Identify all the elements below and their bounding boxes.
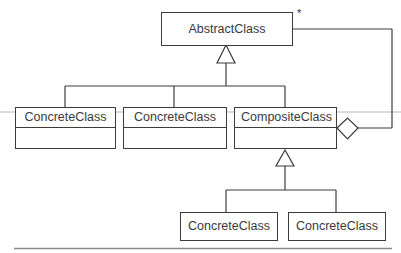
class-attributes-section: [16, 127, 115, 148]
class-concrete-4: ConcreteClass: [288, 212, 386, 241]
class-name: ConcreteClass: [181, 213, 277, 240]
class-composite: CompositeClass: [234, 107, 337, 149]
class-concrete-3: ConcreteClass: [180, 212, 278, 241]
multiplicity-label: *: [297, 7, 301, 19]
generalization-arrow-icon: [276, 150, 294, 166]
class-abstract: AbstractClass: [161, 12, 293, 46]
class-name: ConcreteClass: [16, 108, 115, 127]
class-name: CompositeClass: [235, 108, 336, 127]
generalization-arrow-icon: [217, 45, 235, 63]
class-attributes-section: [235, 127, 336, 148]
class-concrete-1: ConcreteClass: [15, 107, 116, 149]
class-concrete-2: ConcreteClass: [123, 107, 227, 149]
class-attributes-section: [124, 127, 226, 148]
class-name: ConcreteClass: [289, 213, 385, 240]
class-name: ConcreteClass: [124, 108, 226, 127]
aggregation-diamond-icon: [337, 118, 358, 139]
class-name: AbstractClass: [162, 13, 292, 45]
